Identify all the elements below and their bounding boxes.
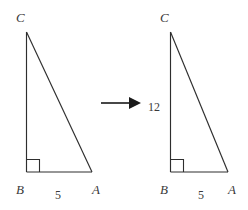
right-triangle-label-a: A — [227, 182, 236, 197]
figure-canvas: C B A 5 C B A 5 12 — [0, 0, 248, 210]
left-triangle-base-measure: 5 — [55, 188, 61, 202]
right-triangle-base-measure: 5 — [198, 188, 204, 202]
right-triangle: C B A 5 12 — [148, 10, 236, 202]
left-triangle-hypotenuse-ca — [27, 32, 93, 172]
right-triangle-leg-measure: 12 — [148, 100, 160, 114]
right-triangle-label-b: B — [160, 182, 168, 197]
left-triangle-right-angle-marker — [27, 160, 40, 173]
left-triangle-label-b: B — [16, 182, 24, 197]
right-triangle-hypotenuse-ca — [171, 32, 229, 172]
right-arrow-icon — [101, 97, 141, 109]
right-triangle-right-angle-marker — [171, 160, 184, 173]
right-triangle-label-c: C — [160, 10, 169, 25]
geometry-figure: C B A 5 C B A 5 12 — [0, 0, 248, 210]
arrow-head — [129, 97, 141, 109]
left-triangle: C B A 5 — [16, 10, 100, 202]
left-triangle-label-c: C — [16, 10, 25, 25]
left-triangle-label-a: A — [91, 182, 100, 197]
